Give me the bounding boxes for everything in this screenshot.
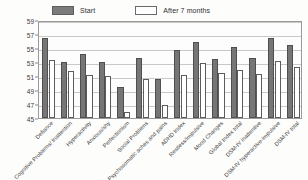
y-axis-tick-label: 55 [20, 46, 34, 53]
x-axis-category-labels: DefianceCognitive Problems/ InattentionH… [38, 120, 302, 180]
bar [117, 87, 123, 119]
bar [237, 70, 243, 118]
bar [124, 112, 130, 118]
y-axis-tick-label: 53 [20, 60, 34, 67]
plot-wrapper: 4547495153555759 [24, 21, 302, 119]
bar [105, 76, 111, 118]
legend-label-start: Start [80, 7, 95, 14]
legend-swatch-after [135, 6, 157, 15]
legend-label-after: After 7 months [163, 7, 210, 14]
bar [99, 62, 105, 118]
bar [136, 58, 142, 118]
bar [294, 67, 300, 118]
bars-layer [39, 22, 301, 118]
bar-chart: Start After 7 months 4547495153555759 De… [0, 0, 308, 180]
y-axis-tick-label: 47 [20, 102, 34, 109]
plot-area [38, 21, 302, 119]
bar [249, 58, 255, 118]
bar [80, 54, 86, 118]
bar [193, 42, 199, 118]
y-axis-tick-label: 59 [20, 18, 34, 25]
bar [200, 63, 206, 118]
bar [174, 50, 180, 118]
bar [287, 45, 293, 118]
legend-swatch-start [52, 6, 74, 15]
bar [181, 75, 187, 118]
bar [61, 62, 67, 118]
y-axis-tick-label: 45 [20, 116, 34, 123]
bar [49, 60, 55, 118]
y-axis-tick-label: 57 [20, 32, 34, 39]
bar [218, 73, 224, 118]
legend-item-start: Start [52, 6, 95, 15]
chart-legend: Start After 7 months [52, 4, 210, 16]
bar [275, 61, 281, 118]
bar [155, 79, 161, 118]
bar [86, 75, 92, 118]
bar [256, 74, 262, 118]
bar [268, 38, 274, 118]
bar [212, 59, 218, 118]
bar [162, 105, 168, 118]
y-axis-tick-label: 51 [20, 74, 34, 81]
bar [68, 71, 74, 118]
legend-item-after: After 7 months [135, 6, 210, 15]
bar [42, 38, 48, 119]
y-axis-tick-label: 49 [20, 88, 34, 95]
bar [231, 47, 237, 118]
bar [143, 79, 149, 118]
